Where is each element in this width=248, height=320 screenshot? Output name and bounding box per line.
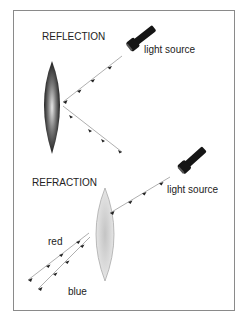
refraction-source-label: light source bbox=[167, 184, 219, 195]
reflection-title: REFLECTION bbox=[42, 31, 105, 42]
blue-ray-label: blue bbox=[68, 286, 87, 297]
optics-diagram: REFLECTION light source REFRACTION bbox=[0, 0, 248, 320]
red-ray-label: red bbox=[48, 236, 62, 247]
refraction-title: REFRACTION bbox=[32, 177, 97, 188]
reflection-source-label: light source bbox=[144, 44, 196, 55]
